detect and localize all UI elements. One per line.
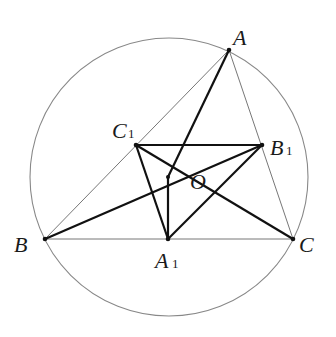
segment-C1A1 [136, 145, 168, 239]
point-B1 [260, 143, 265, 148]
point-O [166, 175, 170, 179]
point-B [43, 237, 48, 242]
segment-A1B1 [168, 145, 262, 239]
label-O: O [190, 169, 206, 194]
segment-B-B1 [45, 145, 262, 239]
point-C [291, 237, 296, 242]
label-C1-sub: 1 [128, 126, 135, 141]
label-B1-sub: 1 [286, 143, 293, 158]
label-B: B [14, 232, 27, 257]
point-A1 [166, 237, 171, 242]
label-B1-main: B [270, 135, 283, 160]
label-A: A [231, 25, 247, 50]
figure-svg: A B C A 1 B 1 C 1 O [0, 0, 336, 337]
segment-AO [168, 50, 229, 177]
label-C1-main: C [112, 118, 127, 143]
label-A1-sub: 1 [172, 256, 179, 271]
geometry-figure: A B C A 1 B 1 C 1 O [0, 0, 336, 337]
point-C1 [134, 143, 139, 148]
label-A1-main: A [153, 248, 169, 273]
point-A [227, 48, 232, 53]
label-C: C [299, 232, 314, 257]
